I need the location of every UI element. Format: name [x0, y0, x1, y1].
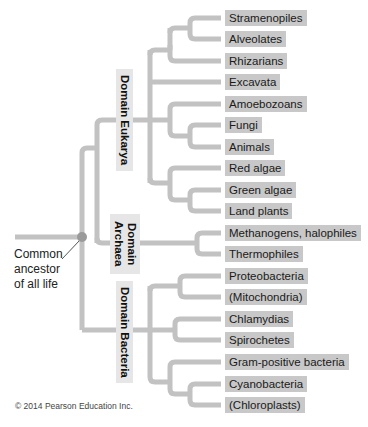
domain-archaea-line2: Archaea [113, 221, 125, 266]
leaf-mitochondria: (Mitochondria) [225, 289, 307, 305]
domain-bacteria-label: Domain Bacteria [116, 281, 133, 383]
leaf-cyanobacteria: Cyanobacteria [225, 376, 307, 392]
domain-eukarya-text: Domain Eukarya [119, 75, 131, 165]
ancestor-line3: of all life [14, 277, 63, 292]
root-node [77, 232, 87, 242]
leaf-proteobacteria: Proteobacteria [225, 268, 308, 284]
domain-archaea-label: Domain Archaea [110, 214, 140, 274]
leaf-fungi: Fungi [225, 117, 262, 133]
leaf-red-algae: Red algae [225, 160, 285, 176]
leaf-stramenopiles: Stramenopiles [225, 10, 307, 26]
leaf-animals: Animals [225, 139, 274, 155]
leaf-rhizarians: Rhizarians [225, 53, 287, 69]
ancestor-line2: ancestor [14, 262, 63, 277]
leaf-excavata: Excavata [225, 74, 280, 90]
leaf-green-algae: Green algae [225, 182, 296, 198]
domain-bacteria-text: Domain Bacteria [119, 287, 131, 378]
leaf-methanogens-halophiles: Methanogens, halophiles [225, 225, 361, 241]
common-ancestor-label: Common ancestor of all life [14, 247, 63, 292]
leaf-alveolates: Alveolates [225, 31, 286, 47]
leaf-land-plants: Land plants [225, 203, 292, 219]
copyright-notice: © 2014 Pearson Education Inc. [15, 401, 133, 411]
leaf-chloroplasts: (Chloroplasts) [225, 397, 305, 413]
leaf-spirochetes: Spirochetes [225, 332, 294, 348]
domain-archaea-line1: Domain [126, 223, 138, 265]
domain-eukarya-label: Domain Eukarya [116, 69, 133, 171]
leaf-thermophiles: Thermophiles [225, 246, 303, 262]
ancestor-line1: Common [14, 247, 63, 262]
leaf-amoebozoans: Amoebozoans [225, 96, 307, 112]
leaf-chlamydias: Chlamydias [225, 311, 293, 327]
leaf-gram-positive-bacteria: Gram-positive bacteria [225, 354, 349, 370]
